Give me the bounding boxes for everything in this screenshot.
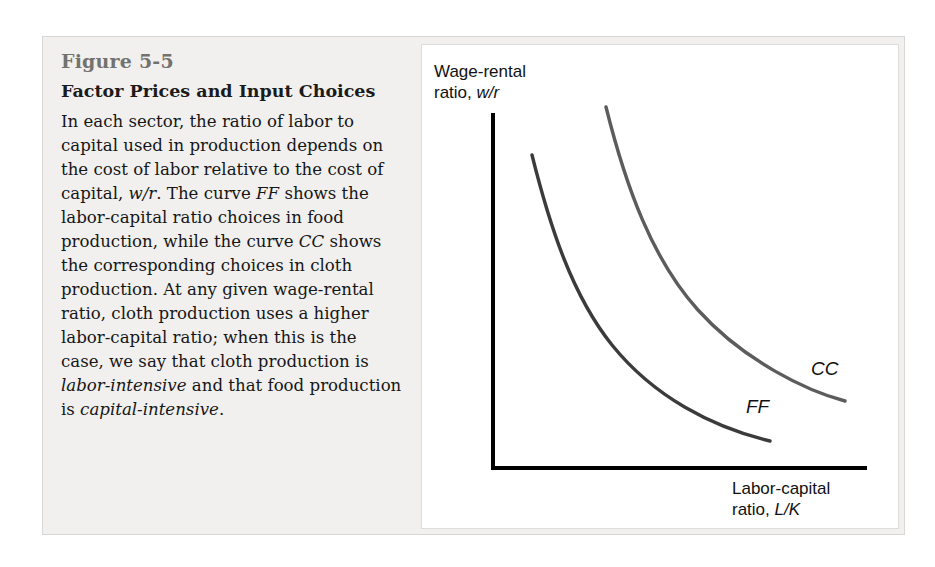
- ff-curve-label: FF: [746, 396, 771, 417]
- caption-column: Figure 5-5 Factor Prices and Input Choic…: [43, 37, 421, 534]
- x-axis-label-line2: ratio, L/K: [732, 500, 801, 519]
- caption-symbol-ff: FF: [256, 184, 279, 203]
- x-axis-label-text: ratio,: [732, 500, 775, 519]
- x-axis-label-line1: Labor-capital: [732, 479, 830, 498]
- caption-text-2: . The curve: [156, 184, 256, 203]
- figure-title: Factor Prices and Input Choices: [61, 81, 403, 101]
- caption-term-labor-intensive: labor-intensive: [61, 376, 187, 395]
- ff-curve: [532, 155, 770, 441]
- figure-caption: In each sector, the ratio of labor to ca…: [61, 110, 403, 422]
- cc-curve-label: CC: [811, 358, 839, 379]
- chart-box: Wage-rental ratio, w/r CC FF Labor-capit…: [421, 44, 899, 529]
- caption-symbol-wr: w/r: [129, 184, 157, 203]
- figure-panel: Figure 5-5 Factor Prices and Input Choic…: [42, 36, 905, 535]
- caption-symbol-cc: CC: [299, 232, 324, 251]
- caption-text-4: shows the corresponding choices in cloth…: [61, 232, 381, 371]
- cc-curve: [606, 107, 845, 401]
- y-axis-label-text: ratio,: [434, 83, 477, 102]
- y-axis-label-line2: ratio, w/r: [434, 83, 501, 102]
- caption-text-6: .: [219, 400, 224, 419]
- y-axis-label-line1: Wage-rental: [434, 62, 526, 81]
- y-axis-label-symbol: w/r: [477, 83, 501, 102]
- caption-term-capital-intensive: capital-intensive: [80, 400, 219, 419]
- x-axis-label-symbol: L/K: [775, 500, 801, 519]
- factor-prices-chart: Wage-rental ratio, w/r CC FF Labor-capit…: [422, 45, 899, 529]
- figure-number: Figure 5-5: [61, 51, 403, 72]
